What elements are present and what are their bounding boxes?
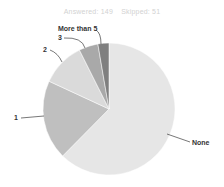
label-3: 3: [58, 34, 62, 42]
callout-line-1: [21, 116, 44, 118]
label-none: None: [192, 139, 210, 147]
pie-slices: [43, 43, 175, 175]
callout-line-none: [167, 134, 190, 142]
callout-line-3: [64, 38, 85, 48]
pie-chart: [0, 0, 224, 187]
label-more-than-5: More than 5: [58, 25, 97, 33]
callout-line-2: [50, 50, 62, 62]
label-2: 2: [43, 46, 47, 54]
label-1: 1: [14, 114, 18, 122]
